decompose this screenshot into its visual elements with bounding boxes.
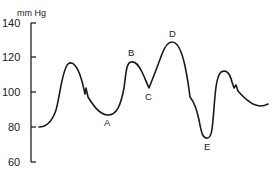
y-tick-120: 120 xyxy=(2,51,20,63)
y-tick-100: 100 xyxy=(2,86,20,98)
point-label-a: A xyxy=(104,117,111,128)
y-tick-60: 60 xyxy=(8,156,20,168)
point-label-b: B xyxy=(128,47,134,58)
point-label-c: C xyxy=(145,91,152,102)
y-tick-140: 140 xyxy=(2,17,20,29)
pressure-waveform xyxy=(39,42,268,138)
point-label-d: D xyxy=(169,28,176,39)
y-tick-80: 80 xyxy=(8,121,20,133)
point-label-e: E xyxy=(204,141,210,152)
y-axis-ticks xyxy=(31,23,36,162)
y-axis-unit-label: mm Hg xyxy=(17,8,46,18)
blood-pressure-chart: mm Hg 140 120 100 80 60 A B C D E xyxy=(0,0,273,172)
